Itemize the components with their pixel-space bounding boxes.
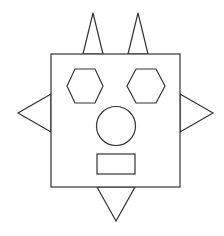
right-eye-hexagon bbox=[127, 69, 165, 103]
mouth-rectangle bbox=[97, 154, 135, 174]
right-spike bbox=[180, 94, 213, 132]
bottom-spike bbox=[97, 187, 135, 221]
nose-circle bbox=[97, 107, 136, 146]
top-left-spike bbox=[83, 13, 103, 54]
top-right-spike bbox=[128, 13, 148, 54]
left-eye-hexagon bbox=[67, 69, 103, 103]
left-spike bbox=[18, 94, 51, 132]
robot-face-diagram bbox=[0, 0, 224, 236]
